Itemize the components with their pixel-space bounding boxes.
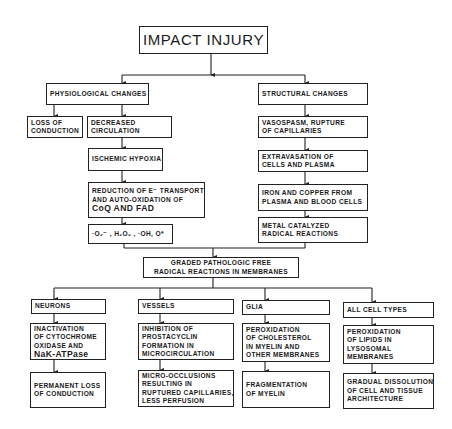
all-cell-types-box: ALL CELL TYPES <box>343 302 434 318</box>
text-line: MICRO-OCCLUSIONS <box>142 372 230 380</box>
structural-changes-label: STRUCTURAL CHANGES <box>262 90 364 98</box>
text-line: PLASMA AND BLOOD CELLS <box>262 198 364 206</box>
text-line: RESULTING IN <box>142 380 230 388</box>
peroxidation-lipids-box: PEROXIDATION OF LIPIDS IN LYSOSOMAL MEMB… <box>343 325 434 364</box>
connector-lines <box>0 0 452 429</box>
text-line: NaK-ATPase <box>34 350 102 358</box>
text-line: RADICAL REACTIONS <box>262 230 364 238</box>
text-line: OF CONDUCTION <box>34 390 102 398</box>
text-line: REDUCTION OF E⁻ TRANSPORT <box>92 187 201 195</box>
physiological-changes-label: PHYSIOLOGICAL CHANGES <box>50 90 145 98</box>
vasospasm-box: VASOSPASM, RUPTURE OF CAPILLARIES <box>258 116 368 138</box>
structural-changes-box: STRUCTURAL CHANGES <box>258 83 368 105</box>
neurons-box: NEURONS <box>31 299 106 314</box>
text-line: OF CHOLESTEROL <box>246 334 326 342</box>
text-line: VESSELS <box>142 302 230 310</box>
text-line: OF MYELIN <box>246 390 326 398</box>
reduction-transport-box: REDUCTION OF E⁻ TRANSPORT AND AUTO-OXIDA… <box>88 182 205 218</box>
physiological-changes-box: PHYSIOLOGICAL CHANGES <box>46 83 149 105</box>
text-line: RUPTURED CAPILLARIES, <box>142 389 230 397</box>
text-line: CIRCULATION <box>91 127 168 135</box>
gradual-dissolution-box: GRADUAL DISSOLUTION OF CELL AND TISSUE A… <box>343 373 434 409</box>
impact-injury-label: IMPACT INJURY <box>143 36 264 44</box>
text-line: PERMANENT LOSS <box>34 382 102 390</box>
iron-copper-box: IRON AND COPPER FROM PLASMA AND BLOOD CE… <box>258 184 368 211</box>
text-line: FRAGMENTATION <box>246 381 326 389</box>
text-line: LYSOSOMAL <box>347 345 430 353</box>
text-line: RADICAL REACTIONS IN MEMBRANES <box>154 268 288 276</box>
text-line: OF CAPILLARIES <box>262 127 364 135</box>
text-line: FORMATION IN <box>142 342 230 350</box>
micro-occlusions-box: MICRO-OCCLUSIONS RESULTING IN RUPTURED C… <box>138 370 234 407</box>
ischemic-hypoxia-box: ISCHEMIC HYPOXIA <box>88 148 163 171</box>
text-line: MEMBRANES <box>347 353 430 361</box>
text-line: CONDUCTION <box>31 127 79 135</box>
text-line: OF CELL AND TISSUE <box>347 387 430 395</box>
text-line: LESS PERFUSION <box>142 397 230 405</box>
inactivation-cytochrome-box: INACTIVATION OF CYTOCHROME OXIDASE AND N… <box>30 323 106 360</box>
text-line: ·O₂⁻ , H₂O₂ , ·OH, O* <box>92 230 169 238</box>
text-line: VASOSPASM, RUPTURE <box>262 119 364 127</box>
text-line: GLIA <box>246 303 326 311</box>
text-line: LOSS OF <box>31 119 79 127</box>
text-line: IRON AND COPPER FROM <box>262 189 364 197</box>
text-line: METAL CATALYZED <box>262 222 364 230</box>
inhibition-prostacyclin-box: INHIBITION OF PROSTACYCLIN FORMATION IN … <box>138 323 234 360</box>
peroxidation-cholesterol-box: PEROXIDATION OF CHOLESTEROL IN MYELIN AN… <box>242 323 330 362</box>
oxygen-radicals-box: ·O₂⁻ , H₂O₂ , ·OH, O* <box>88 224 173 244</box>
text-line: OF LIPIDS IN <box>347 336 430 344</box>
graded-pathologic-box: GRADED PATHOLOGIC FREE RADICAL REACTIONS… <box>143 257 299 278</box>
impact-injury-box: IMPACT INJURY <box>139 26 268 54</box>
decreased-circulation-box: DECREASED CIRCULATION <box>87 116 172 138</box>
vessels-box: VESSELS <box>138 299 234 314</box>
text-line: NEURONS <box>35 302 102 310</box>
text-line: INACTIVATION <box>34 325 102 333</box>
permanent-loss-box: PERMANENT LOSS OF CONDUCTION <box>30 372 106 408</box>
metal-catalyzed-box: METAL CATALYZED RADICAL REACTIONS <box>258 217 368 243</box>
text-line: OF CYTOCHROME <box>34 333 102 341</box>
text-line: PEROXIDATION <box>246 326 326 334</box>
text-line: IN MYELIN AND <box>246 343 326 351</box>
text-line: CELLS AND PLASMA <box>262 161 364 169</box>
text-line: ARCHITECTURE <box>347 395 430 403</box>
text-line: INHIBITION OF <box>142 325 230 333</box>
loss-of-conduction-box: LOSS OF CONDUCTION <box>27 116 83 138</box>
text-line: MICROCIRCULATION <box>142 350 230 358</box>
text-line: DECREASED <box>91 119 168 127</box>
text-line: PROSTACYCLIN <box>142 333 230 341</box>
text-line: OTHER MEMBRANES <box>246 351 326 359</box>
text-line: ALL CELL TYPES <box>347 306 430 314</box>
text-line: CoQ AND FAD <box>92 204 201 212</box>
fragmentation-myelin-box: FRAGMENTATION OF MYELIN <box>242 371 330 408</box>
extravasation-box: EXTRAVASATION OF CELLS AND PLASMA <box>258 150 368 172</box>
text-line: GRADED PATHOLOGIC FREE <box>171 259 272 267</box>
glia-box: GLIA <box>242 300 330 315</box>
text-line: PEROXIDATION <box>347 328 430 336</box>
text-line: GRADUAL DISSOLUTION <box>347 378 430 386</box>
text-line: EXTRAVASATION OF <box>262 153 364 161</box>
text-line: ISCHEMIC HYPOXIA <box>92 155 159 163</box>
